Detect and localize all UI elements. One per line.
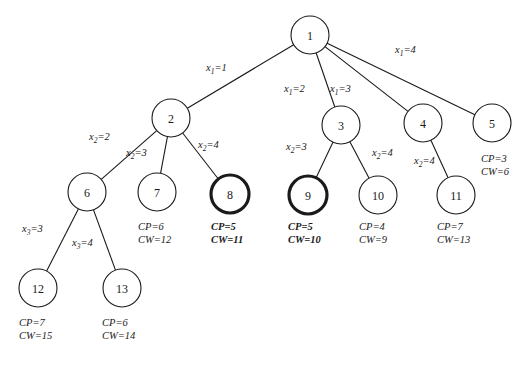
edge-label-value: =4 [80, 237, 92, 248]
cost-cp-line: CP=6 [138, 221, 171, 234]
node-label: 10 [372, 189, 384, 203]
node-label: 4 [420, 117, 426, 131]
tree-edge [316, 142, 333, 178]
tree-edge [94, 210, 116, 270]
edge-label: x2=2 [89, 132, 110, 145]
cost-cw-line: CW=15 [19, 330, 52, 343]
cost-annotation: CP=7CW=15 [19, 317, 52, 343]
node-label: 3 [338, 119, 344, 133]
edge-label: x2=4 [414, 156, 435, 169]
edge-label: x1=1 [206, 63, 227, 76]
cost-annotation: CP=5CW=11 [211, 221, 243, 247]
edge-label-value: =1 [214, 62, 226, 73]
cost-cw-line: CW=13 [437, 234, 470, 247]
edge-label-value: =4 [422, 155, 434, 166]
node-label: 7 [154, 186, 160, 200]
cost-annotation: CP=4CW=9 [359, 221, 387, 247]
cost-cp-line: CP=7 [437, 221, 470, 234]
tree-edge [161, 137, 168, 174]
edge-label-value: =2 [292, 83, 304, 94]
tree-graph-canvas: 12345678910111213 [0, 0, 529, 366]
edge-label: x1=2 [284, 84, 305, 97]
node-label: 11 [450, 189, 462, 203]
cost-annotation: CP=6CW=12 [138, 221, 171, 247]
tree-node-2: 2 [152, 99, 190, 137]
edge-label-value: =2 [97, 131, 109, 142]
cost-annotation: CP=3CW=6 [481, 153, 509, 179]
tree-node-13: 13 [103, 269, 141, 307]
node-label: 6 [84, 186, 90, 200]
edge-label: x2=3 [126, 148, 147, 161]
node-label: 9 [305, 189, 311, 203]
nodes-layer: 12345678910111213 [19, 16, 511, 307]
node-label: 13 [116, 282, 128, 296]
edge-label: x1=4 [395, 45, 416, 58]
edge-label: x2=4 [372, 148, 393, 161]
tree-node-5: 5 [473, 104, 511, 142]
cost-cp-line: CP=4 [359, 221, 387, 234]
cost-cw-line: CW=11 [211, 234, 243, 247]
cost-annotation: CP=6CW=14 [102, 317, 135, 343]
edge-label-value: =3 [294, 141, 306, 152]
tree-node-6: 6 [68, 173, 106, 211]
cost-annotation: CP=7CW=13 [437, 221, 470, 247]
tree-node-12: 12 [19, 269, 57, 307]
cost-cw-line: CW=14 [102, 330, 135, 343]
edge-label: x3=4 [72, 238, 93, 251]
node-label: 12 [32, 282, 44, 296]
cost-cw-line: CW=9 [359, 234, 387, 247]
edge-label: x1=3 [330, 84, 351, 97]
tree-node-1: 1 [291, 16, 329, 54]
edge-label-value: =3 [338, 83, 350, 94]
cost-cp-line: CP=7 [19, 317, 52, 330]
cost-cw-line: CW=6 [481, 166, 509, 179]
node-label: 5 [489, 117, 495, 131]
cost-cw-line: CW=12 [138, 234, 171, 247]
node-label: 2 [168, 112, 174, 126]
tree-node-11: 11 [437, 176, 475, 214]
cost-cp-line: CP=3 [481, 153, 509, 166]
tree-edge [316, 53, 335, 107]
node-label: 8 [227, 188, 233, 202]
tree-node-9: 9 [289, 176, 327, 214]
edge-label: x2=4 [198, 140, 219, 153]
tree-node-8: 8 [211, 175, 249, 213]
search-tree-figure: 12345678910111213 x1=1x1=2x1=3x1=4x2=2x2… [0, 0, 529, 366]
edge-label-value: =4 [206, 139, 218, 150]
tree-edge [187, 45, 293, 109]
edge-label-value: =4 [380, 147, 392, 158]
tree-node-4: 4 [404, 104, 442, 142]
edge-label-value: =3 [30, 223, 42, 234]
edge-label-value: =4 [403, 44, 415, 55]
tree-edge [350, 142, 369, 178]
cost-cp-line: CP=5 [288, 221, 321, 234]
edge-label-value: =3 [134, 147, 146, 158]
tree-node-10: 10 [359, 176, 397, 214]
cost-annotation: CP=5CW=10 [288, 221, 321, 247]
edges-layer [47, 43, 475, 271]
tree-node-7: 7 [138, 173, 176, 211]
cost-cp-line: CP=6 [102, 317, 135, 330]
cost-cp-line: CP=5 [211, 221, 243, 234]
edge-label: x3=3 [22, 224, 43, 237]
cost-cw-line: CW=10 [288, 234, 321, 247]
node-label: 1 [307, 29, 313, 43]
tree-node-3: 3 [322, 106, 360, 144]
edge-label: x2=3 [286, 142, 307, 155]
